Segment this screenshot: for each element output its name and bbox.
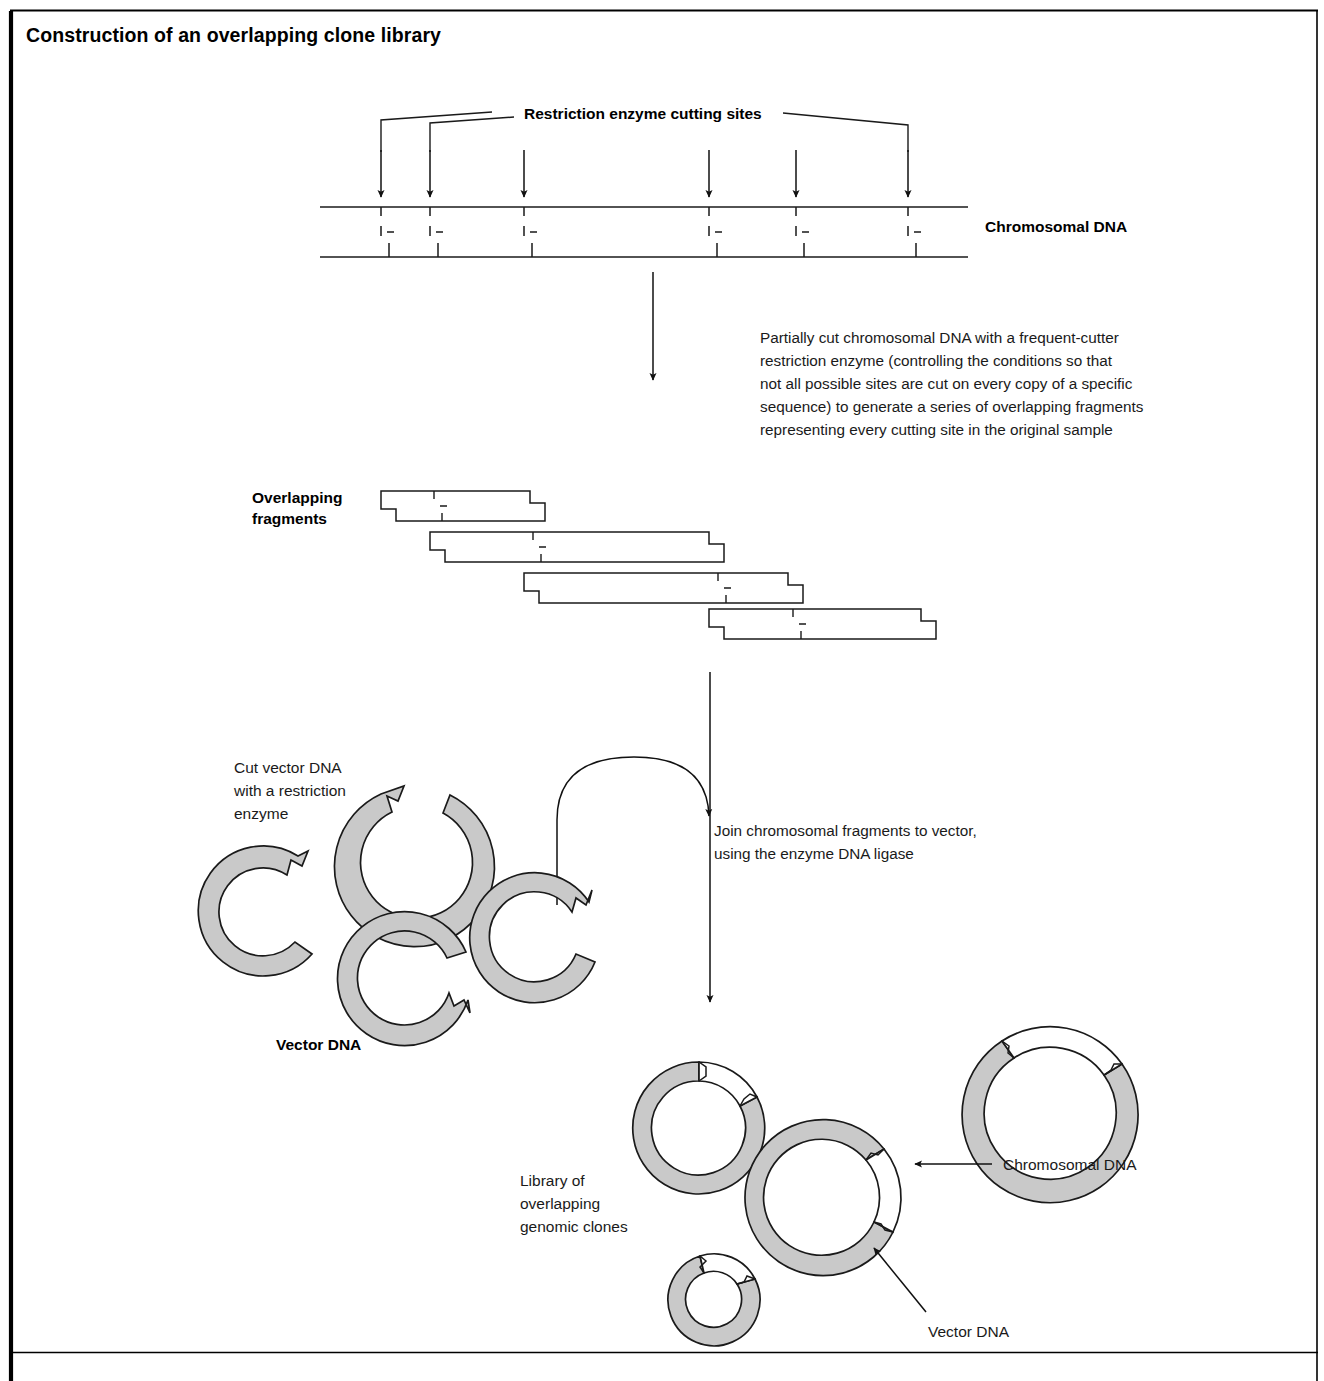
chromosomal-dna-label-top: Chromosomal DNA	[985, 218, 1127, 235]
recombinant-clone-3	[962, 1027, 1138, 1203]
step1-line-4: sequence) to generate a series of overla…	[760, 398, 1144, 415]
cut-vector-line-3: enzyme	[234, 805, 288, 822]
callout-chromosomal-dna-label: Chromosomal DNA	[1003, 1156, 1137, 1173]
cut-vector-line-2: with a restriction	[233, 782, 346, 799]
callout-vector-dna: Vector DNA	[874, 1248, 1010, 1340]
step1-line-1: Partially cut chromosomal DNA with a fre…	[760, 329, 1119, 346]
step2-text-block: Join chromosomal fragments to vector, us…	[714, 822, 977, 862]
figure-canvas: Construction of an overlapping clone lib…	[0, 0, 1324, 1381]
step1-text-block: Partially cut chromosomal DNA with a fre…	[760, 329, 1144, 438]
flow-arrow-ligation	[557, 672, 710, 1002]
fragment-4	[709, 609, 936, 639]
cut-vector-ring-4	[470, 873, 595, 1003]
library-label: Library of overlapping genomic clones	[520, 1172, 628, 1235]
figure-page: Construction of an overlapping clone lib…	[0, 0, 1324, 1381]
cut-vector-rings	[198, 786, 595, 1046]
cut-site-arrows	[381, 150, 908, 197]
cut-vector-label: Cut vector DNA with a restriction enzyme	[233, 759, 346, 822]
chromosomal-dna-duplex	[320, 207, 968, 257]
step1-line-3: not all possible sites are cut on every …	[760, 375, 1133, 392]
recombinant-clone-4	[668, 1254, 760, 1346]
step1-line-5: representing every cutting site in the o…	[760, 421, 1113, 438]
library-line-2: overlapping	[520, 1195, 600, 1212]
fragment-2	[430, 532, 724, 562]
library-line-1: Library of	[520, 1172, 585, 1189]
fragment-3	[524, 573, 803, 603]
cut-vector-ring-3	[338, 912, 470, 1046]
fragment-1	[381, 491, 545, 521]
overlapping-fragments-line-2: fragments	[252, 510, 327, 527]
page-title: Construction of an overlapping clone lib…	[26, 24, 441, 46]
callout-vector-dna-label: Vector DNA	[928, 1323, 1010, 1340]
callout-chromosomal-dna: Chromosomal DNA	[915, 1156, 1137, 1173]
cut-vector-line-1: Cut vector DNA	[234, 759, 342, 776]
library-line-3: genomic clones	[520, 1218, 628, 1235]
overlapping-fragments-label: Overlapping fragments	[252, 489, 342, 527]
cut-vector-ring-1	[198, 846, 312, 976]
recombinant-clones-group	[633, 1027, 1138, 1346]
vector-dna-label-mid: Vector DNA	[276, 1036, 361, 1053]
step2-line-2: using the enzyme DNA ligase	[714, 845, 914, 862]
overlapping-fragments-line-1: Overlapping	[252, 489, 342, 506]
restriction-sites-label: Restriction enzyme cutting sites	[524, 105, 762, 122]
step1-line-2: restriction enzyme (controlling the cond…	[760, 352, 1113, 369]
step2-line-1: Join chromosomal fragments to vector,	[714, 822, 977, 839]
overlapping-fragments-group	[381, 491, 936, 639]
recombinant-clone-1	[633, 1062, 765, 1194]
